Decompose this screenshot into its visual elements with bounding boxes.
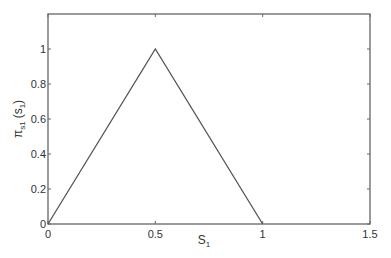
- plot-area: [48, 14, 370, 224]
- x-tick-label: 1.5: [362, 228, 377, 240]
- y-tick-label: 0.6: [31, 113, 46, 125]
- y-tick-label: 0.4: [31, 148, 46, 160]
- x-axis-label: S1: [198, 233, 211, 249]
- y-tick-label: 0: [40, 218, 46, 230]
- y-tick-label: 0.2: [31, 183, 46, 195]
- chart: 00.511.5 00.20.40.60.81 S1 πs1(s1): [0, 0, 391, 258]
- y-tick-label: 1: [40, 43, 46, 55]
- x-tick-label: 1: [260, 228, 266, 240]
- x-tick-label: 0.5: [148, 228, 163, 240]
- y-axis-label: πs1(s1): [11, 100, 27, 138]
- y-tick-label: 0.8: [31, 78, 46, 90]
